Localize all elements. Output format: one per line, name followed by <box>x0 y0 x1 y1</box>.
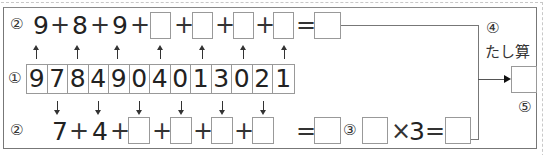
step-1-label: ① <box>8 71 21 86</box>
multiply-input-box[interactable] <box>362 117 388 144</box>
connector-arrow <box>478 79 506 80</box>
step-4-label: ④ <box>486 21 499 36</box>
arrow-down-icon <box>263 101 264 113</box>
bottom-blank-3[interactable] <box>211 117 233 144</box>
arrow-up-icon <box>202 47 203 59</box>
plus-sign: + <box>69 119 89 143</box>
plus-sign: + <box>90 13 110 37</box>
digit-cell: 1 <box>273 65 294 93</box>
isbn-digit-row: 9 7 8 4 9 0 4 0 1 3 0 2 1 <box>26 64 295 94</box>
connector-bottom <box>471 139 479 140</box>
digit-cell: 9 <box>109 65 130 93</box>
equals-sign: = <box>425 119 445 143</box>
bottom-blank-1[interactable] <box>128 117 150 144</box>
digit-cell: 7 <box>48 65 69 93</box>
arrow-up-icon <box>77 47 78 59</box>
digit-cell: 4 <box>89 65 110 93</box>
digit-cell: 0 <box>171 65 192 93</box>
digit-cell: 4 <box>150 65 171 93</box>
top-blank-3[interactable] <box>233 12 254 39</box>
digit-cell: 8 <box>68 65 89 93</box>
top-sum-box[interactable] <box>314 12 341 39</box>
multiply-result-box[interactable] <box>445 117 471 144</box>
arrow-down-icon <box>57 101 58 113</box>
bottom-term-1: 7 <box>52 119 68 144</box>
connector-top <box>341 25 479 26</box>
step-3-label: ③ <box>343 123 356 138</box>
arrow-right-icon <box>504 75 511 83</box>
digit-cell: 2 <box>253 65 274 93</box>
multiply-factor: 3 <box>409 119 425 144</box>
step-2-top-label: ② <box>10 17 23 32</box>
digit-cell: 0 <box>130 65 151 93</box>
top-blank-1[interactable] <box>150 12 171 39</box>
arrow-up-icon <box>36 47 37 59</box>
arrow-down-icon <box>139 101 140 113</box>
arrow-up-icon <box>160 47 161 59</box>
arrow-down-icon <box>181 101 182 113</box>
digit-cell: 9 <box>27 65 48 93</box>
arrow-down-icon <box>222 101 223 113</box>
digit-cell: 0 <box>232 65 253 93</box>
digit-cell: 3 <box>212 65 233 93</box>
arrow-up-icon <box>284 47 285 59</box>
arrow-up-icon <box>243 47 244 59</box>
top-blank-2[interactable] <box>192 12 213 39</box>
plus-sign: + <box>50 13 70 37</box>
digit-cell: 1 <box>191 65 212 93</box>
bottom-sum-box[interactable] <box>314 117 341 144</box>
step-2-bottom-label: ② <box>10 123 23 138</box>
total-sum-box[interactable] <box>511 66 537 93</box>
bottom-blank-2[interactable] <box>170 117 192 144</box>
arrow-down-icon <box>98 101 99 113</box>
plus-sign: + <box>130 13 150 37</box>
addition-title: たし算 <box>485 45 530 60</box>
step-5-label: ⑤ <box>518 100 531 115</box>
top-blank-4[interactable] <box>273 12 294 39</box>
connector-vertical <box>478 25 479 140</box>
top-term-3: 9 <box>112 13 128 38</box>
top-term-1: 9 <box>33 13 49 38</box>
arrow-up-icon <box>117 47 118 59</box>
bottom-blank-4[interactable] <box>252 117 274 144</box>
bottom-term-2: 4 <box>92 119 108 144</box>
top-term-2: 8 <box>72 13 88 38</box>
